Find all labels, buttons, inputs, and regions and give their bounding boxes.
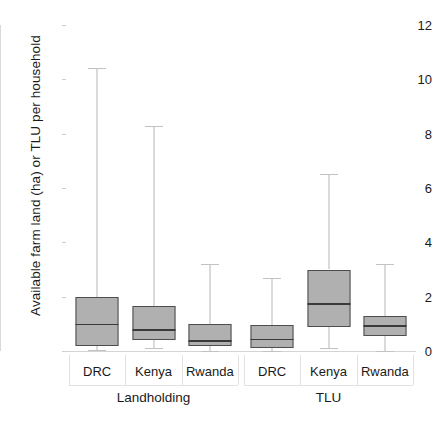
facet-cell-separator: [182, 355, 183, 385]
box-iqr: [132, 306, 175, 340]
median-line: [76, 324, 119, 326]
whisker-lower: [153, 340, 154, 348]
facet-strip-border: [244, 385, 413, 386]
x-tick-label-tlu-rwanda: Rwanda: [361, 364, 409, 379]
box-iqr: [76, 297, 119, 346]
whisker-cap-upper: [144, 126, 162, 127]
whisker-cap-lower: [201, 351, 219, 352]
boxplot-tlu-drc: [251, 25, 294, 351]
facet-cell-separator: [300, 355, 301, 385]
whisker-cap-upper: [88, 68, 106, 69]
facet-label-tlu: TLU: [316, 390, 342, 405]
box-iqr: [188, 324, 231, 346]
y-tick-mark-0: [62, 351, 66, 352]
facet-label-landholding: Landholding: [117, 390, 191, 405]
whisker-cap-lower: [88, 350, 106, 351]
facet-cell-separator: [69, 355, 70, 385]
boxplot-tlu-kenya: [307, 25, 350, 351]
boxplot-tlu-rwanda: [363, 25, 406, 351]
median-line: [132, 329, 175, 331]
facet-cell-separator: [125, 355, 126, 385]
whisker-cap-upper: [263, 278, 281, 279]
box-iqr: [251, 325, 294, 348]
whisker-upper: [97, 68, 98, 296]
whisker-upper: [384, 264, 385, 316]
boxplot-landholding-drc: [76, 25, 119, 351]
whisker-cap-upper: [376, 264, 394, 265]
y-axis-title: Available farm land (ha) or TLU per hous…: [28, 16, 43, 336]
whisker-upper: [272, 278, 273, 326]
whisker-upper: [209, 264, 210, 324]
whisker-cap-lower: [376, 351, 394, 352]
facet-cell-separator: [244, 355, 245, 385]
x-tick-label-landholding-kenya: Kenya: [135, 364, 172, 379]
boxplot-landholding-rwanda: [188, 25, 231, 351]
boxplot-chart: Available farm land (ha) or TLU per hous…: [0, 0, 432, 426]
median-line: [188, 340, 231, 342]
box-iqr: [307, 270, 350, 327]
median-line: [363, 325, 406, 327]
whisker-cap-upper: [201, 264, 219, 265]
whisker-cap-lower: [319, 348, 337, 349]
y-axis-line: [0, 25, 1, 351]
facet-cell-separator: [357, 355, 358, 385]
whisker-cap-lower: [144, 348, 162, 349]
facet-cell-separator: [413, 355, 414, 385]
x-axis-line: [66, 351, 416, 352]
x-tick-label-tlu-kenya: Kenya: [310, 364, 347, 379]
x-tick-label-landholding-rwanda: Rwanda: [186, 364, 234, 379]
whisker-cap-lower: [263, 351, 281, 352]
median-line: [251, 339, 294, 341]
whisker-upper: [328, 174, 329, 269]
plot-area: [66, 25, 416, 351]
whisker-lower: [328, 327, 329, 349]
whisker-cap-upper: [319, 174, 337, 175]
facet-cell-separator: [238, 355, 239, 385]
facet-strip-border: [69, 385, 238, 386]
boxplot-landholding-kenya: [132, 25, 175, 351]
whisker-lower: [384, 336, 385, 351]
median-line: [307, 303, 350, 305]
x-tick-label-landholding-drc: DRC: [83, 364, 111, 379]
whisker-upper: [153, 126, 154, 307]
x-tick-label-tlu-drc: DRC: [258, 364, 286, 379]
